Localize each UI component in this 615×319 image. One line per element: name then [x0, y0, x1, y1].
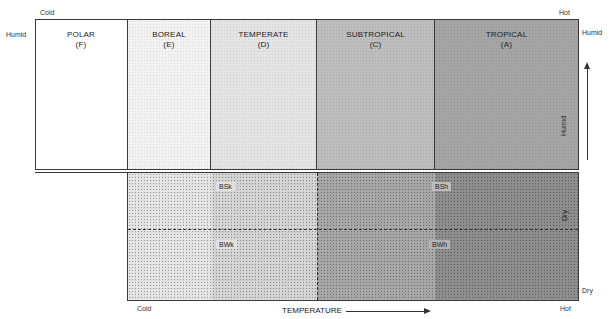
- top-left-cold-label: Cold: [40, 9, 54, 16]
- dry-segment-tropical: [435, 173, 578, 300]
- divider-line-upper: [35, 169, 579, 170]
- dry-segment-temperate: [212, 173, 317, 300]
- humid-frame: [35, 19, 579, 170]
- bottom-left-cold-label: Cold: [137, 305, 151, 312]
- right-humid-label: Humid: [582, 29, 602, 36]
- left-humid-label: Humid: [6, 31, 26, 38]
- temperature-arrow-shaft: [346, 311, 426, 312]
- label-bwk: BWk: [216, 240, 237, 249]
- cold-hot-dashed-divider: [317, 173, 318, 300]
- arrow-up-icon: [584, 62, 590, 69]
- top-right-hot-label: Hot: [559, 9, 570, 16]
- temperature-axis-label: TEMPERATURE: [282, 306, 342, 315]
- label-bsh: BSh: [432, 182, 451, 191]
- label-bwh: BWh: [429, 240, 450, 249]
- steppe-desert-dashed-divider: [128, 229, 578, 230]
- dry-zone-region: BSk BWk BSh BWh Dry: [127, 173, 579, 301]
- moisture-arrow-shaft: [587, 66, 588, 160]
- bottom-right-hot-label: Hot: [560, 305, 571, 312]
- dry-segment-boreal: [128, 173, 212, 300]
- label-bsk: BSk: [216, 182, 235, 191]
- dry-segment-subtropical: [317, 173, 435, 300]
- right-dry-label: Dry: [582, 287, 593, 294]
- arrow-right-icon: [424, 308, 431, 314]
- dry-vertical-label: Dry: [561, 210, 568, 221]
- humid-vertical-label: Humid: [560, 116, 567, 136]
